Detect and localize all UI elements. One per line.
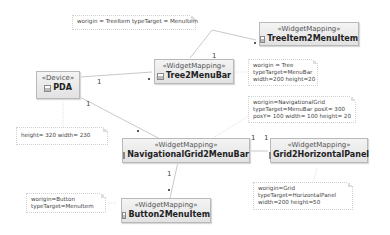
- note-line: height= 320 width= 230: [21, 132, 103, 139]
- many-marker: [148, 78, 150, 80]
- class-icon: [122, 212, 126, 219]
- node-pda[interactable]: «Device» PDA: [36, 71, 80, 99]
- node-name: Grid2HorizontalPanel: [273, 150, 369, 160]
- multiplicity-label: 1: [97, 78, 101, 86]
- note-line: worigin = Tree: [253, 62, 313, 69]
- class-icon: [260, 36, 265, 43]
- node-treeitem2menuitem[interactable]: «WidgetMapping» TreeItem2MenuItem: [259, 22, 359, 46]
- node-button2menuitem[interactable]: «WidgetMapping» Button2MenuItem: [121, 198, 211, 223]
- note-line: typeTarget=MenuBar: [253, 69, 313, 76]
- note-grid: worigin=Grid typeTarget=HorizontalPanel …: [253, 182, 353, 210]
- multiplicity-label: 1: [264, 134, 268, 142]
- note-button: worigin=Button typeTarget=MenuItem: [26, 193, 106, 213]
- node-name: Tree2MenuBar: [166, 71, 231, 81]
- node-stereotype: «WidgetMapping»: [271, 141, 367, 150]
- node-name: Button2MenuItem: [128, 210, 210, 220]
- note-pda: height= 320 width= 230: [16, 127, 108, 145]
- node-navigationalgrid2menubar[interactable]: «WidgetMapping» NavigationalGrid2MenuBar: [122, 138, 250, 163]
- note-line: posY= 100 width= 100 height= 20: [253, 113, 351, 120]
- note-line: width=200 height=50: [258, 199, 348, 206]
- multiplicity-label: 1: [251, 134, 255, 142]
- node-stereotype: «WidgetMapping»: [260, 25, 358, 34]
- note-tree: worigin = Tree typeTarget=MenuBar width=…: [248, 59, 318, 86]
- note-line: worigin=NavigationalGrid: [253, 99, 351, 106]
- note-navgrid: worigin=NavigationalGrid typeTarget=Menu…: [248, 96, 356, 123]
- node-name: NavigationalGrid2MenuBar: [127, 150, 249, 160]
- node-name: PDA: [53, 83, 72, 93]
- note-line: worigin=Grid: [258, 185, 348, 192]
- multiplicity-label: 1: [86, 100, 90, 108]
- multiplicity-label: 1: [212, 52, 216, 60]
- note-line: typeTarget=MenuBar posX= 300: [253, 106, 351, 113]
- note-treeitem: worigin = TreeItem typeTarget = MenuItem: [72, 15, 196, 30]
- node-grid2horizontalpanel[interactable]: «WidgetMapping» Grid2HorizontalPanel: [270, 138, 368, 163]
- node-stereotype: «WidgetMapping»: [123, 141, 249, 150]
- note-line: width=200 height=20: [253, 76, 313, 83]
- node-tree2menubar[interactable]: «WidgetMapping» Tree2MenuBar: [154, 59, 234, 84]
- node-stereotype: «Device»: [37, 74, 79, 83]
- class-icon: [269, 152, 271, 159]
- note-line: typeTarget=HorizontalPanel: [258, 192, 348, 199]
- multiplicity-label: 1: [167, 170, 171, 178]
- many-marker: [168, 189, 170, 191]
- node-stereotype: «WidgetMapping»: [122, 201, 210, 210]
- note-line: worigin = TreeItem typeTarget = MenuItem: [77, 18, 191, 25]
- class-icon: [123, 152, 125, 159]
- node-stereotype: «WidgetMapping»: [155, 62, 233, 71]
- many-marker: [137, 130, 139, 132]
- node-name: TreeItem2MenuItem: [267, 34, 358, 44]
- class-icon: [44, 85, 51, 92]
- note-line: typeTarget=MenuItem: [31, 203, 101, 210]
- many-marker: [254, 42, 256, 44]
- class-icon: [157, 73, 164, 80]
- note-line: worigin=Button: [31, 196, 101, 203]
